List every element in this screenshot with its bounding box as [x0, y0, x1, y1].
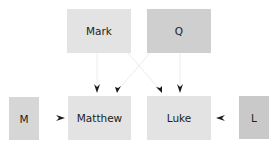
- node-label: Luke: [167, 112, 192, 124]
- node-q: Q: [147, 9, 211, 53]
- arrowhead-l-luke: [216, 115, 225, 121]
- node-m: M: [9, 97, 39, 140]
- node-label: Q: [175, 25, 183, 37]
- node-label: Mark: [86, 25, 112, 37]
- node-matthew: Matthew: [68, 96, 131, 140]
- node-label: Matthew: [77, 112, 122, 124]
- edge-q-matthew: [118, 53, 150, 90]
- edge-mark-luke: [128, 53, 160, 90]
- connector-layer: [0, 0, 277, 152]
- arrowhead-q-matthew: [115, 86, 121, 93]
- node-l: L: [239, 96, 269, 139]
- arrowhead-m-matthew: [56, 115, 65, 121]
- node-label: M: [19, 113, 28, 125]
- node-luke: Luke: [147, 96, 211, 140]
- node-mark: Mark: [67, 9, 131, 53]
- node-label: L: [251, 112, 257, 124]
